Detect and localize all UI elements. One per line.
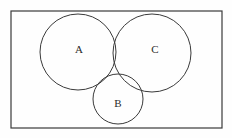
set-label-c: C [151, 43, 158, 55]
venn-diagram-figure: A C B [0, 0, 232, 138]
set-label-b: B [114, 97, 121, 109]
venn-diagram-canvas: A C B [0, 0, 232, 138]
set-label-a: A [75, 43, 83, 55]
